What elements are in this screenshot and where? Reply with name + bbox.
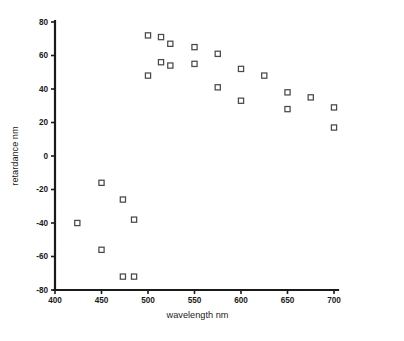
data-point [75, 220, 80, 225]
data-point [120, 197, 125, 202]
x-tick-label: 600 [234, 296, 248, 305]
y-tick-label: 0 [43, 152, 48, 161]
data-point [99, 180, 104, 185]
data-point [168, 63, 173, 68]
y-tick-label: 40 [39, 85, 49, 94]
x-tick-label: 700 [327, 296, 341, 305]
data-point [238, 98, 243, 103]
y-tick-label: 80 [39, 18, 49, 27]
data-point [215, 85, 220, 90]
data-point [131, 217, 136, 222]
x-tick-label: 550 [188, 296, 202, 305]
y-tick-label: -40 [36, 219, 48, 228]
data-point [145, 33, 150, 38]
x-tick-label: 650 [281, 296, 295, 305]
x-tick-label: 450 [95, 296, 109, 305]
x-axis-ticks: 400450500550600650700 [48, 290, 341, 305]
data-point [120, 274, 125, 279]
x-tick-label: 500 [141, 296, 155, 305]
data-point [131, 274, 136, 279]
data-point-group [75, 33, 337, 279]
data-point [238, 66, 243, 71]
data-point [158, 60, 163, 65]
data-point [285, 90, 290, 95]
data-point [331, 125, 336, 130]
y-axis-ticks: 806040200-20-40-60-80 [36, 18, 55, 295]
y-tick-label: -80 [36, 286, 48, 295]
data-point [99, 247, 104, 252]
data-point [192, 61, 197, 66]
x-tick-label: 400 [48, 296, 62, 305]
y-tick-label: -60 [36, 252, 48, 261]
data-point [192, 45, 197, 50]
data-point [168, 41, 173, 46]
y-tick-label: 60 [39, 51, 49, 60]
y-tick-label: -20 [36, 185, 48, 194]
data-point [285, 107, 290, 112]
y-axis-title: retardance nm [10, 126, 20, 186]
plot-area: 806040200-20-40-60-80 400450500550600650… [0, 0, 404, 341]
data-point [308, 95, 313, 100]
data-point [262, 73, 267, 78]
scatter-chart: 806040200-20-40-60-80 400450500550600650… [0, 0, 404, 341]
data-point [331, 105, 336, 110]
data-point [145, 73, 150, 78]
data-point [158, 34, 163, 39]
x-axis-title: wavelength nm [166, 310, 229, 320]
y-tick-label: 20 [39, 118, 49, 127]
data-point [215, 51, 220, 56]
